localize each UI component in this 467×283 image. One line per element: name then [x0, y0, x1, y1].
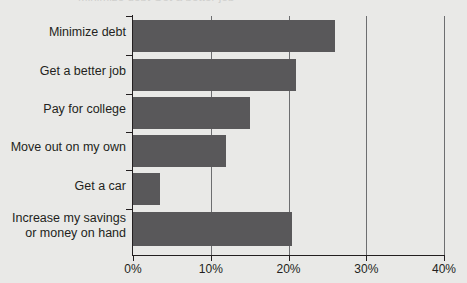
value-tick-10pct	[211, 256, 212, 261]
clipped-title-text: Minimize debt Get a better job	[78, 0, 378, 3]
category-tick-1	[126, 55, 133, 56]
bar-chart-figure: Minimize debt Get a better job Minimize …	[0, 0, 467, 283]
gridline-30pct	[366, 16, 367, 255]
bar-increase-my-savings	[133, 212, 292, 246]
plot-area	[133, 16, 444, 255]
category-label-move-out-on-my-own: Move out on my own	[0, 140, 126, 155]
gridline-40pct	[444, 16, 445, 255]
bar-get-a-better-job	[133, 59, 296, 91]
value-label-10pct: 10%	[191, 262, 231, 276]
category-tick-3	[126, 132, 133, 133]
value-tick-20pct	[289, 256, 290, 261]
category-tick-4	[126, 170, 133, 171]
category-label-get-a-car: Get a car	[0, 179, 126, 194]
category-tick-0	[126, 16, 133, 17]
category-label-pay-for-college: Pay for college	[0, 102, 126, 117]
value-label-30pct: 30%	[346, 262, 386, 276]
value-label-40pct: 40%	[424, 262, 464, 276]
value-tick-40pct	[444, 256, 445, 261]
bar-pay-for-college	[133, 97, 250, 129]
bar-get-a-car	[133, 173, 160, 205]
value-label-0pct: 0%	[113, 262, 153, 276]
category-label-increase-my-savings: Increase my savings or money on hand	[0, 211, 126, 240]
value-label-20pct: 20%	[269, 262, 309, 276]
category-label-minimize-debt: Minimize debt	[0, 25, 126, 40]
category-tick-5	[126, 209, 133, 210]
value-tick-30pct	[366, 256, 367, 261]
value-tick-0pct	[133, 256, 134, 261]
bar-move-out-on-my-own	[133, 135, 226, 167]
category-label-get-a-better-job: Get a better job	[0, 64, 126, 79]
category-tick-2	[126, 94, 133, 95]
bar-minimize-debt	[133, 20, 335, 52]
